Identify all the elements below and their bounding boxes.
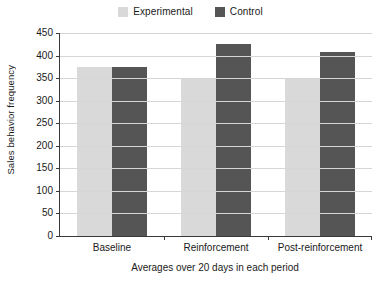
y-axis-tick-label: 200 bbox=[19, 141, 53, 151]
gridline bbox=[60, 33, 372, 34]
y-axis-tick bbox=[56, 168, 60, 169]
x-axis-tick bbox=[164, 236, 165, 240]
y-axis-tick bbox=[56, 213, 60, 214]
y-axis-tick-label: 150 bbox=[19, 163, 53, 173]
y-axis-tick bbox=[56, 146, 60, 147]
legend-item-experimental: Experimental bbox=[118, 6, 193, 17]
gridline bbox=[60, 191, 372, 192]
gridline bbox=[60, 56, 372, 57]
gridline bbox=[60, 213, 372, 214]
y-axis-tick bbox=[56, 123, 60, 124]
bar-reinforcement-control bbox=[216, 44, 251, 236]
y-axis-tick bbox=[56, 191, 60, 192]
plot-area: 450400350300250200150100500BaselineReinf… bbox=[59, 33, 372, 237]
x-axis-tick bbox=[371, 236, 372, 240]
y-axis-tick-label: 0 bbox=[19, 231, 53, 241]
legend-label-control: Control bbox=[230, 6, 263, 17]
y-axis-tick-label: 450 bbox=[19, 28, 53, 38]
bar-post-reinforcement-control bbox=[320, 52, 355, 236]
legend-swatch-experimental bbox=[118, 7, 128, 17]
y-axis-tick bbox=[56, 33, 60, 34]
chart-legend: Experimental Control bbox=[0, 6, 381, 17]
y-axis-title: Sales behavior frequency bbox=[2, 0, 18, 240]
gridline bbox=[60, 146, 372, 147]
y-axis-tick-label: 400 bbox=[19, 51, 53, 61]
legend-item-control: Control bbox=[215, 6, 263, 17]
legend-swatch-control bbox=[215, 7, 225, 17]
y-axis-tick-label: 100 bbox=[19, 186, 53, 196]
y-axis-tick-label: 250 bbox=[19, 118, 53, 128]
y-axis-tick-label: 350 bbox=[19, 73, 53, 83]
y-axis-tick-label: 50 bbox=[19, 208, 53, 218]
y-axis-tick-label: 300 bbox=[19, 96, 53, 106]
legend-label-experimental: Experimental bbox=[133, 6, 193, 17]
gridline bbox=[60, 78, 372, 79]
bar-reinforcement-experimental bbox=[181, 78, 216, 236]
bar-chart: Experimental Control Sales behavior freq… bbox=[0, 0, 381, 283]
y-axis-tick bbox=[56, 101, 60, 102]
y-axis-tick bbox=[56, 236, 60, 237]
x-axis-group-label: Reinforcement bbox=[183, 242, 248, 253]
gridline bbox=[60, 168, 372, 169]
x-axis-title: Averages over 20 days in each period bbox=[59, 262, 371, 273]
gridline bbox=[60, 101, 372, 102]
y-axis-title-text: Sales behavior frequency bbox=[5, 65, 16, 175]
y-axis-tick bbox=[56, 78, 60, 79]
x-axis-group-label: Post-reinforcement bbox=[278, 242, 362, 253]
y-axis-tick bbox=[56, 56, 60, 57]
gridline bbox=[60, 123, 372, 124]
x-axis-group-label: Baseline bbox=[93, 242, 131, 253]
bars-layer bbox=[60, 33, 372, 236]
x-axis-tick bbox=[268, 236, 269, 240]
bar-baseline-experimental bbox=[77, 67, 112, 236]
bar-baseline-control bbox=[112, 67, 147, 236]
